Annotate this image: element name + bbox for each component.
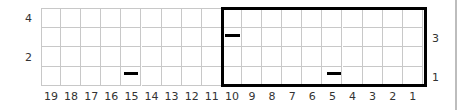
grid-cell xyxy=(61,47,81,67)
stitch-symbol-col15-row1 xyxy=(124,72,138,75)
column-label: 19 xyxy=(41,90,61,103)
grid-cell xyxy=(41,67,61,87)
column-label: 16 xyxy=(101,90,121,103)
column-label: 3 xyxy=(363,90,383,103)
grid-cell xyxy=(41,28,61,48)
column-label: 5 xyxy=(322,90,342,103)
grid-cell xyxy=(81,47,101,67)
left-row-label-2: 2 xyxy=(25,51,32,64)
knitting-chart: 4 2 3 1 19181716151413121110987654321 xyxy=(0,0,464,110)
pattern-repeat-box xyxy=(221,7,427,87)
grid-cell xyxy=(121,47,141,67)
grid-cell xyxy=(101,28,121,48)
grid-cell xyxy=(162,28,182,48)
column-label: 4 xyxy=(343,90,363,103)
column-label: 11 xyxy=(202,90,222,103)
grid-cell xyxy=(142,47,162,67)
grid-cell xyxy=(81,28,101,48)
grid-cell xyxy=(182,67,202,87)
column-label: 17 xyxy=(81,90,101,103)
column-label: 7 xyxy=(282,90,302,103)
grid-cell xyxy=(101,47,121,67)
right-row-label-3: 3 xyxy=(432,32,439,45)
grid-cell xyxy=(41,8,61,28)
column-label: 13 xyxy=(162,90,182,103)
grid-cell xyxy=(162,47,182,67)
grid-cell xyxy=(182,8,202,28)
grid-cell xyxy=(41,47,61,67)
grid-cell xyxy=(121,8,141,28)
grid-cell xyxy=(61,28,81,48)
grid-cell xyxy=(81,8,101,28)
stitch-symbol-col10-row3 xyxy=(225,34,240,37)
grid-cell xyxy=(101,67,121,87)
grid-cell xyxy=(81,67,101,87)
stitch-symbol-col5-row1 xyxy=(327,72,341,75)
grid-cell xyxy=(121,28,141,48)
column-label: 14 xyxy=(142,90,162,103)
right-divider xyxy=(455,0,457,110)
grid-cell xyxy=(202,28,222,48)
grid-cell xyxy=(61,8,81,28)
column-label: 15 xyxy=(121,90,141,103)
grid-cell xyxy=(202,47,222,67)
grid-cell xyxy=(101,8,121,28)
column-label: 9 xyxy=(242,90,262,103)
grid-cell xyxy=(162,67,182,87)
column-label: 2 xyxy=(383,90,403,103)
column-label: 12 xyxy=(182,90,202,103)
grid-cell xyxy=(202,8,222,28)
column-label: 10 xyxy=(222,90,242,103)
grid-cell xyxy=(162,8,182,28)
grid-cell xyxy=(182,28,202,48)
grid-cell xyxy=(142,8,162,28)
grid-cell xyxy=(61,67,81,87)
grid-cell xyxy=(142,67,162,87)
grid-cell xyxy=(142,28,162,48)
column-label: 8 xyxy=(262,90,282,103)
column-label: 1 xyxy=(403,90,423,103)
column-label: 18 xyxy=(61,90,81,103)
grid-cell xyxy=(121,67,141,87)
column-label: 6 xyxy=(302,90,322,103)
left-row-label-4: 4 xyxy=(25,12,32,25)
grid-cell xyxy=(202,67,222,87)
grid-cell xyxy=(182,47,202,67)
right-row-label-1: 1 xyxy=(432,71,439,84)
